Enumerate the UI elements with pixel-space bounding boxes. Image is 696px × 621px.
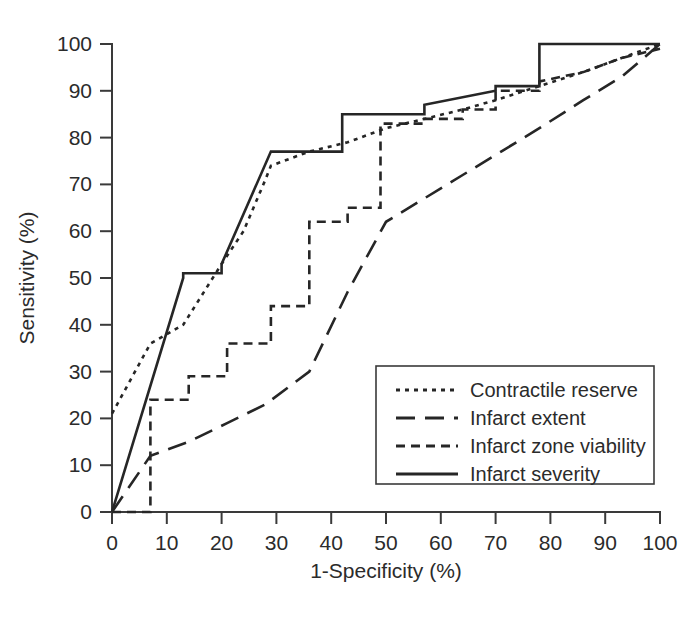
x-tick-label-50: 50 [374,531,397,554]
legend: Contractile reserveInfarct extentInfarct… [376,366,654,485]
y-tick-label-70: 70 [69,172,92,195]
x-axis: 0102030405060708090100 1-Specificity (%) [106,512,677,582]
y-tick-label-0: 0 [80,500,92,523]
y-axis: 0102030405060708090100 Sensitivity (%) [15,32,112,523]
curve-contractile-reserve [112,44,660,414]
y-tick-label-40: 40 [69,313,92,336]
legend-label: Infarct zone viability [470,435,646,457]
y-axis-title: Sensitivity (%) [15,211,38,344]
roc-curve-figure: 0102030405060708090100 Sensitivity (%) 0… [0,0,696,621]
y-tick-label-100: 100 [57,32,92,55]
x-tick-label-80: 80 [539,531,562,554]
x-tick-label-0: 0 [106,531,118,554]
x-tick-label-60: 60 [429,531,452,554]
y-tick-label-20: 20 [69,406,92,429]
x-axis-ticks [112,512,660,524]
y-tick-label-60: 60 [69,219,92,242]
x-axis-tick-labels: 0102030405060708090100 [106,531,677,554]
x-tick-label-90: 90 [594,531,617,554]
y-axis-ticks [100,44,112,512]
y-tick-label-10: 10 [69,453,92,476]
chart-canvas: 0102030405060708090100 Sensitivity (%) 0… [0,0,696,621]
legend-label: Contractile reserve [470,379,638,401]
y-tick-label-80: 80 [69,126,92,149]
x-tick-label-30: 30 [265,531,288,554]
legend-label: Infarct extent [470,407,586,429]
y-axis-tick-labels: 0102030405060708090100 [57,32,92,523]
x-tick-label-40: 40 [320,531,343,554]
x-tick-label-100: 100 [642,531,677,554]
x-axis-title: 1-Specificity (%) [310,559,462,582]
y-tick-label-90: 90 [69,79,92,102]
x-tick-label-20: 20 [210,531,233,554]
x-tick-label-10: 10 [155,531,178,554]
legend-label: Infarct severity [470,463,600,485]
x-tick-label-70: 70 [484,531,507,554]
y-tick-label-30: 30 [69,360,92,383]
y-tick-label-50: 50 [69,266,92,289]
